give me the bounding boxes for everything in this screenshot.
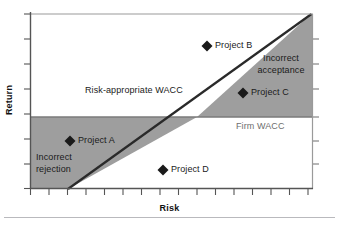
label-risk-appropriate-wacc: Risk-appropriate WACC xyxy=(85,85,183,96)
chart-canvas xyxy=(0,0,339,226)
label-project-a: Project A xyxy=(78,135,115,146)
label-firm-wacc: Firm WACC xyxy=(236,121,285,132)
label-incorrect-acceptance: Incorrect acceptance xyxy=(253,52,309,76)
label-project-b: Project B xyxy=(215,40,252,51)
x-axis-title: Risk xyxy=(0,203,339,213)
y-axis-ticks xyxy=(24,14,30,189)
right-axis-ticks xyxy=(313,39,319,164)
label-incorrect-rejection: Incorrect rejection xyxy=(36,151,92,175)
x-axis-ticks xyxy=(31,189,309,195)
wacc-scatter-figure: Project A Project B Project C Project D … xyxy=(0,0,339,226)
label-project-c: Project C xyxy=(251,87,289,98)
y-axis-title: Return xyxy=(4,70,14,130)
footer-divider xyxy=(4,217,335,218)
label-project-d: Project D xyxy=(171,164,209,175)
